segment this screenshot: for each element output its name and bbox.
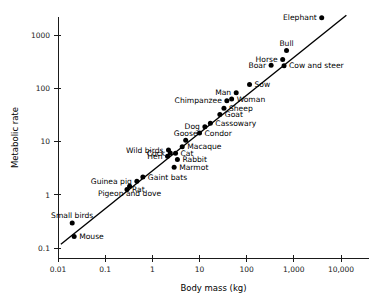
metabolic-scaling-chart: 0.11101001000 0.010.11101001,00010,000 M… (0, 0, 375, 305)
y-tick-label: 1000 (31, 31, 50, 40)
data-point (280, 57, 285, 62)
point-label: Bull (279, 39, 293, 48)
point-label: Sheep (229, 104, 253, 113)
data-point (319, 15, 324, 20)
point-label: Chimpanzee (175, 96, 223, 105)
point-label: Condor (205, 129, 233, 138)
point-label: Marmot (179, 163, 208, 172)
data-point (72, 234, 77, 239)
y-tick-label: 100 (36, 84, 51, 93)
point-label: Wild birds (126, 146, 164, 155)
x-tick-label: 1 (150, 265, 155, 274)
data-point (282, 63, 287, 68)
point-label: Pigeon and dove (98, 189, 162, 198)
data-point (208, 121, 213, 126)
data-point (173, 151, 178, 156)
point-label: Cassowary (215, 119, 257, 128)
point-label: Dog (185, 122, 200, 131)
x-tick-label: 100 (240, 265, 255, 274)
x-axis-title: Body mass (kg) (180, 283, 246, 293)
x-tick-label: 0.01 (50, 265, 67, 274)
point-label: Woman (237, 95, 266, 104)
data-point (166, 148, 171, 153)
x-tick-label: 1,000 (283, 265, 305, 274)
point-label: Sow (255, 80, 271, 89)
data-point (247, 82, 252, 87)
point-label: Gaint bats (148, 173, 187, 182)
point-label: Mouse (79, 232, 104, 241)
point-label: Small birds (51, 211, 93, 220)
data-point (140, 175, 145, 180)
data-point (217, 112, 222, 117)
point-label: Elephant (283, 13, 317, 22)
point-label: Horse (256, 55, 278, 64)
y-tick-label: 10 (40, 137, 50, 146)
data-point (134, 179, 139, 184)
data-point (284, 48, 289, 53)
chart-svg: 0.11101001000 0.010.11101001,00010,000 M… (0, 0, 375, 305)
y-axis-title: Metabolic rate (10, 107, 20, 168)
y-tick-label: 1 (45, 191, 50, 200)
data-point (172, 165, 177, 170)
y-tick-label: 0.1 (38, 244, 50, 253)
x-tick-label: 10,000 (328, 265, 354, 274)
point-labels-group: MouseSmall birdsRatPigeon and doveGuinea… (51, 13, 344, 241)
x-tick-label: 0.1 (99, 265, 111, 274)
point-label: Man (215, 88, 231, 97)
data-point (224, 98, 229, 103)
data-point (175, 157, 180, 162)
data-point (70, 220, 75, 225)
x-tick-label: 10 (195, 265, 205, 274)
point-label: Macaque (187, 142, 222, 151)
point-label: Guinea pig (91, 177, 132, 186)
point-label: Cow and steer (289, 61, 345, 70)
